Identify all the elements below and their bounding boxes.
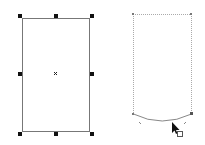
control-handle-left[interactable] xyxy=(139,122,141,124)
node-bottom-right[interactable] xyxy=(190,112,193,115)
rectangle-with-curved-bottom[interactable] xyxy=(132,13,193,124)
handle-top-middle[interactable] xyxy=(54,14,58,18)
node-top-left[interactable] xyxy=(132,13,134,15)
rectangle-outline xyxy=(23,19,90,132)
handle-middle-left[interactable] xyxy=(18,72,22,76)
control-handles[interactable] xyxy=(139,122,186,124)
node-bottom-left[interactable] xyxy=(132,113,134,115)
control-handle-right[interactable] xyxy=(184,122,186,124)
handle-bottom-left[interactable] xyxy=(18,132,22,136)
handle-top-left[interactable] xyxy=(18,14,22,18)
handle-bottom-right[interactable] xyxy=(90,132,94,136)
curved-bottom-edge[interactable] xyxy=(134,114,192,121)
arrow-cursor-with-square-icon xyxy=(172,122,183,137)
selected-rectangle[interactable] xyxy=(18,14,94,136)
handle-bottom-middle[interactable] xyxy=(54,132,58,136)
center-x-icon xyxy=(54,72,57,75)
canvas xyxy=(0,0,205,145)
handle-top-right[interactable] xyxy=(90,14,94,18)
handle-middle-right[interactable] xyxy=(90,72,94,76)
cursor-square-icon xyxy=(178,132,183,137)
node-top-right[interactable] xyxy=(190,13,192,15)
